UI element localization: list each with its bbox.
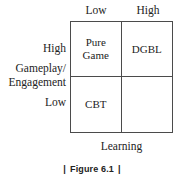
matrix-grid: Pure Game DGBL CBT (70, 21, 173, 133)
caption-left-rule: | (59, 164, 70, 174)
x-axis-tick-low: Low (70, 3, 122, 17)
caption-text: Figure 6.1 (70, 164, 114, 174)
matrix-cell-label: Pure Game (83, 36, 109, 62)
x-axis-tick-high: High (122, 3, 174, 17)
x-axis-title: Learning (70, 139, 173, 153)
y-axis-tick-high: High (0, 41, 66, 55)
figure-caption: |Figure 6.1| (0, 164, 184, 174)
y-axis-title-line2: Engagement (0, 75, 66, 89)
y-axis-title-line1: Gameplay/ (0, 61, 66, 75)
y-axis-tick-low: Low (0, 95, 66, 109)
matrix-cell-top-right: DGBL (122, 22, 173, 77)
matrix-cell-top-left: Pure Game (71, 22, 122, 77)
figure-6-1: Low High High Gameplay/ Engagement Low P… (0, 0, 184, 181)
matrix-cell-label: DGBL (132, 43, 162, 56)
matrix-cell-bottom-left: CBT (71, 77, 122, 132)
caption-right-rule: | (114, 164, 125, 174)
matrix-cell-label: CBT (85, 98, 106, 111)
y-axis-title: Gameplay/ Engagement (0, 61, 66, 89)
matrix-cell-bottom-right (122, 77, 173, 132)
